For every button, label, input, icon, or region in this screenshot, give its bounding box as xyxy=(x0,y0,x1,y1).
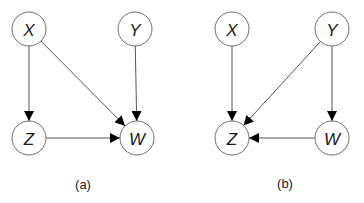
panel-caption: (b) xyxy=(277,176,293,191)
node-w: W xyxy=(315,121,349,155)
node-label: X xyxy=(22,21,35,40)
panel-caption: (a) xyxy=(75,177,91,192)
node-label: Z xyxy=(226,130,238,149)
node-label: W xyxy=(324,130,342,149)
node-z: Z xyxy=(215,121,249,155)
edge-y-to-z xyxy=(243,42,320,126)
node-label: Y xyxy=(129,21,142,40)
node-label: X xyxy=(225,21,238,40)
node-label: Y xyxy=(326,21,339,40)
node-label: Z xyxy=(23,130,35,149)
node-y: Y xyxy=(118,12,152,46)
node-w: W xyxy=(120,121,154,155)
causal-graph-figure: XYZW(a)XYZW(b) xyxy=(0,0,364,203)
node-x: X xyxy=(12,12,46,46)
node-x: X xyxy=(215,12,249,46)
edge-x-to-w xyxy=(41,41,125,126)
node-y: Y xyxy=(315,12,349,46)
diagram-panel-b: XYZW(b) xyxy=(215,12,349,191)
edge-y-to-w xyxy=(135,46,136,121)
node-label: W xyxy=(129,130,147,149)
diagram-panel-a: XYZW(a) xyxy=(12,12,154,192)
node-z: Z xyxy=(12,121,46,155)
panels: XYZW(a)XYZW(b) xyxy=(12,12,349,192)
